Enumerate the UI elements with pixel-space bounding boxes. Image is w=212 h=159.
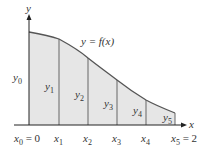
curve-label: y = f(x) <box>80 35 114 48</box>
x-tick-label-x3: x3 <box>111 132 121 147</box>
x-tick-label-x2: x2 <box>82 132 92 147</box>
x-axis-arrow-icon <box>181 123 187 128</box>
y-axis-label: y <box>25 2 31 14</box>
x-tick-label-x0: x0 = 0 <box>13 132 41 147</box>
svg-text:x3: x3 <box>111 132 121 147</box>
y-axis-arrow-icon <box>27 14 32 20</box>
svg-text:x0 = 0: x0 = 0 <box>13 132 41 147</box>
x-axis-label: x <box>188 118 194 130</box>
svg-text:x2: x2 <box>82 132 92 147</box>
svg-text:x1: x1 <box>53 132 63 147</box>
ordinate-label-y0: y0 <box>12 71 22 86</box>
trapezoid-diagram: y x y = f(x) y0 y1 y2 y3 y4 y5 x0 = 0 x1… <box>0 0 212 159</box>
x-tick-label-x4: x4 <box>140 132 150 147</box>
svg-text:x5 = 2: x5 = 2 <box>170 132 197 147</box>
svg-text:x4: x4 <box>140 132 150 147</box>
x-tick-label-x1: x1 <box>53 132 63 147</box>
x-tick-label-x5: x5 = 2 <box>170 132 197 147</box>
svg-text:y0: y0 <box>12 71 22 86</box>
